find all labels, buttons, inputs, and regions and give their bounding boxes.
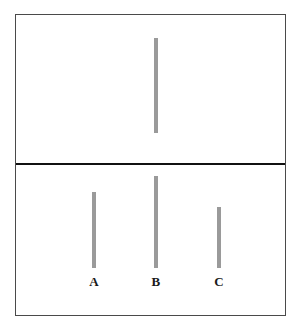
- bar-label-c: C: [209, 275, 229, 289]
- bar-label-b: B: [146, 275, 166, 289]
- upper-reference-bar: [154, 38, 158, 133]
- bar-c: [217, 207, 221, 268]
- horizontal-separator-line: [16, 163, 285, 165]
- bar-a: [92, 192, 96, 268]
- figure-canvas: A B C: [0, 0, 300, 330]
- bar-b: [154, 176, 158, 268]
- figure-frame: [15, 14, 286, 316]
- bar-label-a: A: [84, 275, 104, 289]
